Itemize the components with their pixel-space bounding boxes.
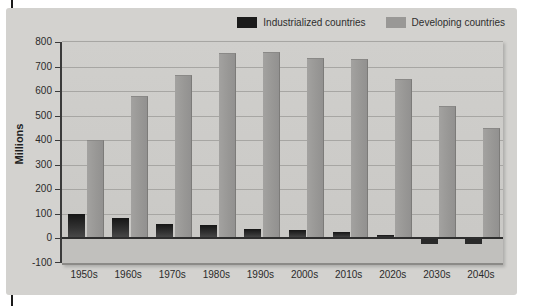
y-tick-800 <box>55 42 60 43</box>
y-tick--100 <box>55 262 60 263</box>
y-tick-label-700: 700 <box>16 62 52 72</box>
x-tick-label-2020s: 2020s <box>370 269 416 280</box>
y-tick-label-400: 400 <box>16 135 52 145</box>
gridline-600 <box>62 91 503 92</box>
bar-developing-2030s <box>439 106 456 240</box>
y-tick-0 <box>55 238 60 239</box>
x-tick-label-1980s: 1980s <box>193 269 239 280</box>
x-tick-label-2040s: 2040s <box>458 269 504 280</box>
bar-developing-2040s <box>483 128 500 240</box>
bar-developing-1990s <box>263 52 280 240</box>
legend-item-industrialized: Industrialized countries <box>237 17 365 28</box>
y-tick-200 <box>55 189 60 190</box>
gridline-700 <box>62 67 503 68</box>
plot-area <box>62 41 503 265</box>
gridline-100 <box>62 214 503 215</box>
y-tick-label-800: 800 <box>16 37 52 47</box>
bar-industrialized-1960s <box>112 218 129 239</box>
x-tick-label-1960s: 1960s <box>105 269 151 280</box>
y-tick-label-0: 0 <box>16 233 52 243</box>
gridline-400 <box>62 140 503 141</box>
x-tick-label-1950s: 1950s <box>61 269 107 280</box>
zero-axis-line <box>62 237 503 239</box>
bar-developing-2020s <box>395 79 412 240</box>
y-tick-label-600: 600 <box>16 86 52 96</box>
y-tick-700 <box>55 67 60 68</box>
x-tick-label-1990s: 1990s <box>237 269 283 280</box>
y-tick-600 <box>55 91 60 92</box>
bar-developing-2000s <box>307 58 324 239</box>
y-tick-label-200: 200 <box>16 184 52 194</box>
y-tick-500 <box>55 116 60 117</box>
chart-panel: Industrialized countries Developing coun… <box>6 8 517 295</box>
legend-label-industrialized: Industrialized countries <box>263 17 365 28</box>
y-tick-label-100: 100 <box>16 209 52 219</box>
bar-developing-2010s <box>351 59 368 239</box>
bar-industrialized-1980s <box>200 225 217 239</box>
y-tick-label-300: 300 <box>16 160 52 170</box>
y-tick-label-500: 500 <box>16 111 52 121</box>
y-tick-400 <box>55 140 60 141</box>
bar-industrialized-1970s <box>156 224 173 239</box>
bar-industrialized-2030s <box>421 239 438 244</box>
bar-developing-1970s <box>175 75 192 239</box>
developing-swatch <box>386 17 406 28</box>
gridline-500 <box>62 116 503 117</box>
legend-item-developing: Developing countries <box>386 17 505 28</box>
y-tick-300 <box>55 165 60 166</box>
bar-developing-1980s <box>219 53 236 239</box>
bar-developing-1950s <box>87 140 104 239</box>
industrialized-swatch <box>237 17 257 28</box>
gridline-200 <box>62 189 503 190</box>
y-tick-100 <box>55 214 60 215</box>
bar-developing-1960s <box>131 96 148 239</box>
x-tick-label-2030s: 2030s <box>414 269 460 280</box>
y-tick-label--100: -100 <box>16 258 52 268</box>
x-tick-label-2000s: 2000s <box>282 269 328 280</box>
x-tick-label-2010s: 2010s <box>326 269 372 280</box>
bar-industrialized-2040s <box>465 239 482 244</box>
bar-industrialized-1950s <box>68 214 85 239</box>
gridline-300 <box>62 165 503 166</box>
x-tick-label-1970s: 1970s <box>149 269 195 280</box>
chart-legend: Industrialized countries Developing coun… <box>6 14 505 30</box>
legend-label-developing: Developing countries <box>412 17 505 28</box>
y-axis-line <box>60 42 62 263</box>
